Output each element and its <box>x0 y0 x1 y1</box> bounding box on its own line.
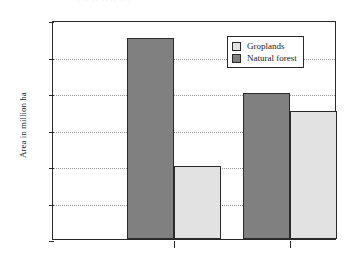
x-tick-mark <box>174 241 175 248</box>
bar-1995-natural-forest <box>243 93 290 239</box>
bar-1980-natural-forest <box>127 38 174 239</box>
chart-legend: Groplands Natural forest <box>227 36 304 68</box>
y-tick-mark <box>49 132 54 133</box>
y-tick-mark <box>49 241 54 242</box>
cropped-header-text: ··· ·· ···· ··· <box>78 0 198 6</box>
y-tick-mark <box>49 59 54 60</box>
y-tick-mark <box>49 95 54 96</box>
y-axis-title: Area in million ha <box>18 60 28 190</box>
legend-label-croplands: Groplands <box>247 41 285 51</box>
bar-1980-groplands <box>174 166 221 239</box>
legend-swatch-natural-forest-icon <box>232 54 241 63</box>
legend-item-natural-forest: Natural forest <box>232 52 297 64</box>
x-tick-mark <box>290 241 291 248</box>
bar-chart-figure: ··· ·· ···· ··· Area in million ha 40042… <box>0 0 351 266</box>
legend-swatch-croplands-icon <box>232 42 241 51</box>
bar-1995-groplands <box>290 111 337 239</box>
y-tick-mark <box>49 205 54 206</box>
legend-label-natural-forest: Natural forest <box>247 53 297 63</box>
y-tick-mark <box>49 168 54 169</box>
gridline <box>53 95 335 96</box>
y-tick-mark <box>49 22 54 23</box>
legend-item-croplands: Groplands <box>232 40 297 52</box>
